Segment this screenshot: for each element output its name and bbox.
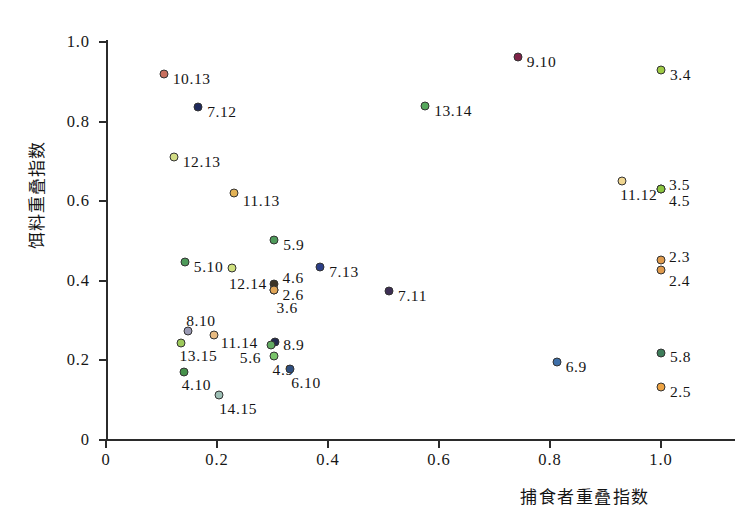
data-point-label: 11.12 [620, 186, 657, 204]
data-point[interactable] [421, 102, 430, 111]
data-point-label: 5.8 [670, 348, 691, 366]
x-axis-line [106, 439, 735, 441]
data-point-label: 7.12 [207, 103, 237, 121]
data-point[interactable] [618, 176, 627, 185]
y-axis-line [106, 40, 108, 441]
data-point[interactable] [194, 102, 203, 111]
y-axis-title: 饵料重叠指数 [23, 100, 48, 290]
data-point[interactable] [215, 391, 224, 400]
data-point-label: 13.14 [434, 102, 472, 120]
data-point[interactable] [657, 185, 666, 194]
y-tick-label: 0 [26, 430, 90, 450]
y-tick-mark [99, 200, 106, 202]
data-point-label: 12.14 [229, 275, 267, 293]
data-point-label: 4.10 [182, 376, 212, 394]
x-tick-label: 0.8 [515, 450, 585, 470]
data-point-label: 8.9 [283, 336, 304, 354]
x-tick-mark [216, 441, 218, 448]
y-tick-mark [99, 41, 106, 43]
data-point[interactable] [286, 365, 295, 374]
x-tick-mark [549, 441, 551, 448]
x-tick-mark [105, 441, 107, 448]
data-point-label: 13.15 [179, 347, 217, 365]
data-point-label: 2.5 [670, 383, 691, 401]
data-point-label: 7.11 [398, 287, 427, 305]
data-point-label: 3.6 [277, 299, 298, 317]
data-point-label: 5.6 [240, 349, 261, 367]
data-point[interactable] [180, 257, 189, 266]
data-point-label: 6.9 [566, 358, 587, 376]
data-point[interactable] [552, 358, 561, 367]
x-tick-mark [438, 441, 440, 448]
y-tick-mark [99, 280, 106, 282]
scatter-chart: 00.20.40.60.81.0 00.20.40.60.81.0 10.137… [0, 0, 751, 527]
data-point[interactable] [270, 235, 279, 244]
data-point-label: 12.13 [183, 153, 221, 171]
data-point[interactable] [229, 189, 238, 198]
data-point[interactable] [209, 331, 218, 340]
data-point-label: 6.10 [291, 374, 321, 392]
data-point-label: 4.5 [669, 192, 690, 210]
x-tick-label: 0.2 [182, 450, 252, 470]
x-axis-title: 捕食者重叠指数 [520, 483, 650, 508]
y-tick-label: 0.2 [26, 350, 90, 370]
data-point[interactable] [657, 383, 666, 392]
data-point-label: 9.10 [527, 53, 557, 71]
data-point-label: 11.13 [243, 192, 280, 210]
data-point-label: 10.13 [173, 70, 211, 88]
x-tick-label: 1.0 [626, 450, 696, 470]
data-point-label: 14.15 [219, 400, 257, 418]
data-point[interactable] [316, 262, 325, 271]
data-point[interactable] [385, 286, 394, 295]
x-tick-label: 0.6 [404, 450, 474, 470]
data-point[interactable] [269, 352, 278, 361]
data-point[interactable] [657, 65, 666, 74]
data-point[interactable] [227, 264, 236, 273]
x-tick-mark [660, 441, 662, 448]
data-point[interactable] [269, 285, 278, 294]
data-point[interactable] [657, 255, 666, 264]
data-point-label: 4.6 [283, 269, 304, 287]
data-point-label: 7.13 [329, 263, 359, 281]
y-tick-mark [99, 359, 106, 361]
x-tick-mark [327, 441, 329, 448]
data-point[interactable] [513, 52, 522, 61]
data-point[interactable] [657, 349, 666, 358]
data-point[interactable] [159, 69, 168, 78]
y-tick-label: 1.0 [26, 32, 90, 52]
data-point-label: 5.9 [283, 236, 304, 254]
data-point[interactable] [169, 152, 178, 161]
x-tick-label: 0 [71, 450, 141, 470]
data-point-label: 8.10 [186, 312, 216, 330]
y-tick-mark [99, 121, 106, 123]
data-point-label: 2.3 [669, 248, 690, 266]
data-point[interactable] [657, 265, 666, 274]
data-point[interactable] [266, 341, 275, 350]
data-point-label: 3.4 [670, 66, 691, 84]
data-point-label: 2.4 [669, 272, 690, 290]
x-tick-label: 0.4 [293, 450, 363, 470]
data-point-label: 5.10 [194, 258, 224, 276]
